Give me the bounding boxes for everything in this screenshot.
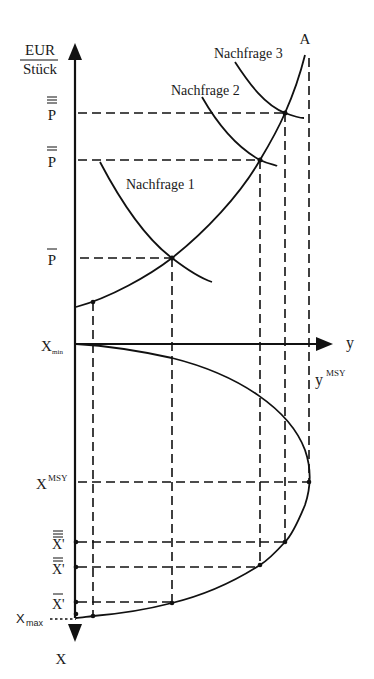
arrow-up-icon (68, 43, 82, 60)
svg-text:X': X' (52, 562, 65, 577)
point-xmax-axis (74, 612, 79, 617)
point-x3-axis (74, 540, 79, 545)
svg-text:P: P (48, 252, 56, 268)
point-x3-curve (283, 540, 288, 545)
svg-text:MSY: MSY (48, 473, 68, 483)
demand-label-2: Nachfrage 2 (171, 83, 240, 98)
svg-text:X: X (16, 611, 25, 626)
svg-text:P: P (48, 107, 56, 123)
svg-text:min: min (52, 348, 63, 356)
stock-label-xmsy: X MSY (36, 473, 68, 492)
svg-text:y: y (315, 371, 323, 389)
svg-text:P: P (48, 154, 56, 170)
price-label-p3: P (47, 97, 57, 123)
svg-text:MSY: MSY (326, 368, 346, 378)
point-xmax-curve (91, 614, 96, 619)
svg-text:X': X' (52, 597, 65, 612)
arrow-down-icon (68, 624, 82, 642)
point-x2-axis (74, 565, 79, 570)
svg-text:max: max (26, 618, 44, 628)
stock-label-x3: X' (52, 531, 65, 552)
stock-label-xmin: X min (41, 338, 63, 356)
yield-stock-curve (76, 344, 310, 618)
demand-label-1: Nachfrage 1 (126, 177, 195, 192)
axis-label-eur: EUR (25, 42, 55, 58)
supply-label-a: A (300, 31, 311, 47)
point-x1-curve (170, 601, 175, 606)
point-x2-curve (258, 563, 263, 568)
stock-label-x1: X' (52, 594, 65, 612)
demand-curve-2 (202, 97, 277, 166)
arrow-right-icon (316, 337, 333, 351)
svg-text:X: X (41, 338, 52, 354)
point-msy (307, 480, 312, 485)
fishery-diagram: EUR Stück P P P A Nachfrage 1 Nachfrage … (0, 0, 374, 679)
yield-label-ymsy: y MSY (315, 368, 346, 389)
demand-label-3: Nachfrage 3 (214, 46, 283, 61)
stock-label-xmax: X max (16, 611, 44, 628)
svg-text:X': X' (52, 537, 65, 552)
price-label-p2: P (47, 147, 57, 170)
horizontal-axis-label-y: y (346, 334, 354, 352)
stock-label-x2: X' (52, 558, 65, 577)
price-label-p1: P (47, 249, 57, 268)
vertical-axis-label-x: X (56, 651, 67, 667)
point-x1-axis (74, 600, 79, 605)
axis-label-stueck: Stück (23, 61, 58, 77)
svg-text:X: X (36, 476, 47, 492)
